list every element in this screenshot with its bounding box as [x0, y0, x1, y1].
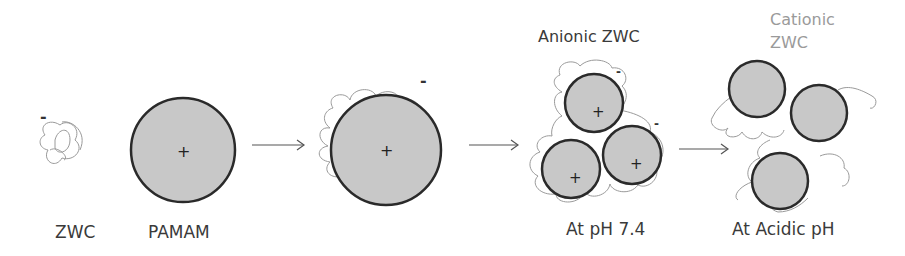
zwc-negative-charge: - [40, 107, 47, 126]
label-zwc: ZWC [55, 222, 95, 242]
acidic-dendrimer-1 [729, 61, 785, 117]
ph74-negative-charge-top: - [616, 65, 621, 79]
label-acidic-ph: At Acidic pH [732, 219, 835, 239]
complex-positive-charge: + [380, 141, 393, 160]
arrow-3 [679, 144, 728, 154]
ph74-positive-charge-right: + [630, 155, 643, 173]
arrow-1 [252, 140, 304, 150]
ph74-negative-charge-right: - [654, 117, 659, 131]
zwc-polymer-coil [40, 122, 82, 164]
label-ph74: At pH 7.4 [566, 219, 645, 239]
ph74-positive-charge-left: + [569, 169, 582, 187]
ph74-positive-charge-top: + [592, 103, 605, 121]
label-pamam: PAMAM [148, 222, 210, 242]
acidic-dendrimer-2 [791, 85, 847, 141]
complex-negative-charge: - [420, 71, 427, 90]
arrow-2 [469, 140, 518, 150]
acidic-dendrimer-3 [752, 153, 808, 209]
label-cationic-zwc-line2: ZWC [770, 33, 808, 52]
label-cationic-zwc-line1: Cationic [770, 10, 835, 29]
pamam-positive-charge: + [177, 142, 190, 161]
label-anionic-zwc: Anionic ZWC [538, 27, 640, 46]
